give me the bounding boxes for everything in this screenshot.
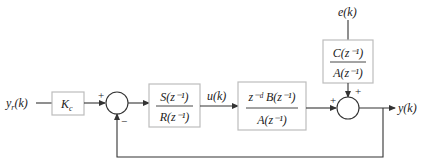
- disturbance-signal-label: e(k): [338, 5, 357, 19]
- controller-numerator: S(z⁻¹): [160, 90, 188, 104]
- plant-block: z⁻ᵈ B(z⁻¹) A(z⁻¹): [238, 82, 306, 130]
- noise-filter-block: C(z⁻¹) A(z⁻¹): [323, 40, 373, 83]
- noise-filter-numerator: C(z⁻¹): [333, 46, 363, 60]
- plus-sign: +: [98, 89, 104, 101]
- reference-signal-label: yr(k): [5, 96, 28, 112]
- plant-denominator: A(z⁻¹): [256, 113, 287, 127]
- svg-text:yr(k): yr(k): [5, 96, 28, 112]
- minus-sign: −: [121, 115, 127, 127]
- plus-sign-left: +: [330, 94, 336, 106]
- output-signal-label: y(k): [397, 101, 417, 115]
- plus-sign-top: +: [355, 85, 361, 97]
- block-diagram: yr(k) Kc + − S(z⁻¹) R(z⁻¹) u(k) z⁻ᵈ B(z⁻…: [0, 0, 436, 167]
- gain-block-kc: Kc: [52, 92, 84, 115]
- plant-numerator: z⁻ᵈ B(z⁻¹): [248, 90, 296, 104]
- error-summing-junction: + −: [98, 89, 128, 127]
- output-summing-junction: + +: [330, 85, 361, 119]
- control-signal-label: u(k): [207, 89, 226, 103]
- noise-filter-denominator: A(z⁻¹): [332, 66, 363, 80]
- controller-denominator: R(z⁻¹): [159, 110, 190, 124]
- controller-block: S(z⁻¹) R(z⁻¹): [149, 84, 200, 127]
